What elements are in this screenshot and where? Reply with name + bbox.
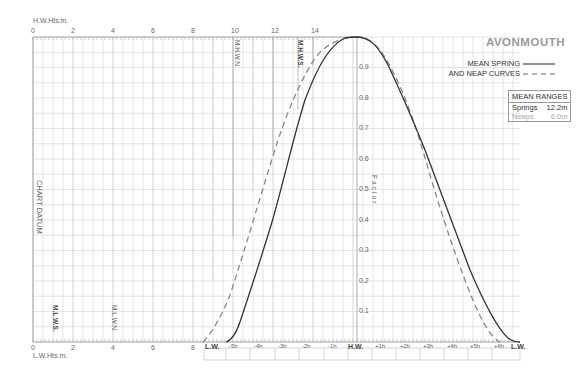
bottom-tick: 6 xyxy=(151,344,155,351)
neaps-label: Neaps xyxy=(512,112,534,121)
mean-ranges-header: MEAN RANGES xyxy=(509,91,570,103)
time-tick: +4h xyxy=(447,343,457,349)
time-tick: -5h xyxy=(229,343,238,349)
factor-tick: 0.6 xyxy=(359,155,369,162)
top-tick: 10 xyxy=(231,27,239,34)
top-tick: 14 xyxy=(311,27,319,34)
port-title: AVONMOUTH xyxy=(486,36,565,48)
lw-heights-label: L.W.Hts.m. xyxy=(33,352,67,359)
time-tick: L.W. xyxy=(205,343,219,350)
legend-neap-label: AND NEAP CURVES xyxy=(420,69,520,78)
chart-datum-label: CHART DATUM xyxy=(35,180,44,234)
time-tick: +1h xyxy=(375,343,385,349)
mlwn-label: M.L.W.N. xyxy=(111,305,118,332)
factor-tick: 0.5 xyxy=(359,185,369,192)
factor-tick: 0.8 xyxy=(359,94,369,101)
top-tick: 0 xyxy=(31,27,35,34)
time-tick: H.W. xyxy=(348,343,363,350)
mhws-label: M.H.W.S. xyxy=(297,40,304,67)
mlws-label: M.L.W.S. xyxy=(52,305,59,332)
top-tick: 12 xyxy=(271,27,279,34)
bottom-tick: 8 xyxy=(191,344,195,351)
factor-tick: 0.2 xyxy=(359,277,369,284)
neaps-row: Neaps 6.0m xyxy=(509,112,570,121)
time-tick: L.W. xyxy=(511,343,525,350)
hw-heights-label: H.W.Hts.m. xyxy=(33,17,68,24)
bottom-tick: 0 xyxy=(31,344,35,351)
factor-tick: 0.9 xyxy=(359,63,369,70)
top-tick: 8 xyxy=(191,27,195,34)
tidal-curve-diagram: AVONMOUTH MEAN SPRING AND NEAP CURVES ME… xyxy=(0,0,576,383)
springs-label: Springs xyxy=(512,103,537,112)
springs-value: 12.2m xyxy=(547,103,568,112)
factor-tick: 0.3 xyxy=(359,246,369,253)
time-tick: -2h xyxy=(302,343,311,349)
factor-label: Factor xyxy=(371,175,378,205)
top-tick: 2 xyxy=(71,27,75,34)
time-tick: +3h xyxy=(423,343,433,349)
top-tick: 6 xyxy=(151,27,155,34)
mhwn-label: M.H.W.N. xyxy=(234,40,241,68)
time-tick: -1h xyxy=(328,343,337,349)
legend-spring-label: MEAN SPRING xyxy=(440,59,520,68)
time-tick: +6h xyxy=(494,343,504,349)
bottom-tick: 4 xyxy=(111,344,115,351)
grid xyxy=(33,37,520,342)
springs-row: Springs 12.2m xyxy=(509,103,570,112)
neaps-value: 6.0m xyxy=(551,112,568,121)
top-tick: 4 xyxy=(111,27,115,34)
tidal-curve-svg xyxy=(0,0,576,383)
factor-tick: 0.7 xyxy=(359,124,369,131)
mean-ranges-box: MEAN RANGES Springs 12.2m Neaps 6.0m xyxy=(508,90,571,122)
bottom-tick: 2 xyxy=(71,344,75,351)
time-tick: +5h xyxy=(470,343,480,349)
factor-tick: 0.4 xyxy=(359,216,369,223)
time-tick: -3h xyxy=(278,343,287,349)
time-tick: -4h xyxy=(254,343,263,349)
factor-tick: 0.1 xyxy=(359,307,369,314)
time-tick: +2h xyxy=(400,343,410,349)
